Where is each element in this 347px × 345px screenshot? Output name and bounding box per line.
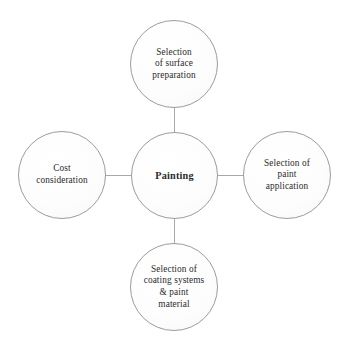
node-painting-center[interactable]: Painting	[131, 132, 218, 219]
node-painting-center-label: Painting	[150, 170, 198, 182]
node-surface-preparation[interactable]: Selection of surface preparation	[130, 20, 218, 108]
diagram-canvas: Selection of surface preparation Selecti…	[0, 0, 347, 345]
connector-center-to-left	[105, 175, 132, 176]
node-cost-consideration-label: Cost consideration	[31, 163, 92, 186]
node-coating-systems-label: Selection of coating systems & paint mat…	[139, 264, 210, 310]
connector-center-to-right	[217, 175, 244, 176]
connector-center-to-top	[174, 107, 175, 133]
node-coating-systems[interactable]: Selection of coating systems & paint mat…	[130, 243, 218, 331]
node-paint-application[interactable]: Selection of paint application	[243, 131, 331, 219]
node-paint-application-label: Selection of paint application	[259, 158, 315, 193]
node-cost-consideration[interactable]: Cost consideration	[18, 131, 106, 219]
node-surface-preparation-label: Selection of surface preparation	[147, 47, 200, 82]
connector-center-to-bottom	[174, 218, 175, 244]
